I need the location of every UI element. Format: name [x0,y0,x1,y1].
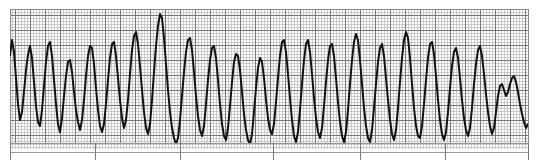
ecg-strip-container: ECG Rhythm Strip [0,0,539,164]
margin-grid-fine [10,143,528,149]
ecg-chart: ECG Rhythm Strip [0,0,539,164]
